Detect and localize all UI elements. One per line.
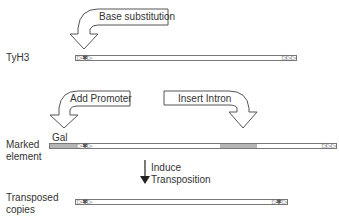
gal-promoter-segment (50, 144, 77, 148)
transposed-copies-label: Transposed copies (6, 192, 58, 216)
left-ltr: ▷✱▷ (77, 143, 92, 149)
left-ltr: ▷✱▷ (77, 199, 92, 205)
add-promoter-label: Add Promoter (70, 93, 132, 104)
induce-transposition-arrow (140, 160, 150, 184)
induce-line2: Transposition (151, 174, 211, 186)
marked-element-bar: ▷✱▷ ▷▷▷ (49, 143, 337, 149)
left-ltr: ▷✱▷ (77, 55, 92, 61)
right-ltr: ▷✱▷ (272, 199, 287, 205)
insert-intron-label: Insert Intron (178, 93, 231, 104)
transposed-label-line2: copies (6, 204, 58, 216)
transposed-label-line1: Transposed (6, 192, 58, 204)
right-ltr: ▷▷▷ (282, 55, 296, 61)
right-ltr: ▷▷▷ (322, 143, 336, 149)
transposed-copy-bar: ▷✱▷ ▷✱▷ (75, 199, 288, 205)
marked-label-line2: element (6, 151, 42, 163)
intron-segment (220, 144, 257, 148)
tyh3-element-bar: ▷✱▷ ▷▷▷ (75, 55, 297, 61)
tyh3-label: TyH3 (6, 52, 29, 64)
marked-element-label: Marked element (6, 139, 42, 163)
marked-label-line1: Marked (6, 139, 42, 151)
base-substitution-label: Base substitution (99, 11, 175, 22)
induce-line1: Induce (151, 162, 211, 174)
induce-transposition-label: Induce Transposition (151, 162, 211, 186)
